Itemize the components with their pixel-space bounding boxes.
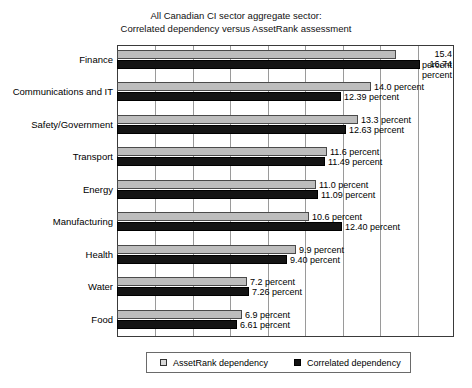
category-axis: FinanceCommunications and ITSafety/Gover… [0,45,113,337]
bar-correlated [117,92,341,101]
bar-value-label: 12.39 percent [344,92,399,102]
bar-group: 11.6 percent11.49 percent [117,142,454,174]
bar-assetrank [117,245,296,254]
category-label: Energy [0,184,113,195]
legend-label-correlated: Correlated dependency [307,358,401,368]
bar-value-label: 10.6 percent [312,212,362,222]
chart-legend: AssetRank dependency Correlated dependen… [146,352,411,373]
bar-value-label: 6.9 percent [245,310,290,320]
category-label: Communications and IT [0,86,113,97]
bar-rows: 15.4 percent16.74 percent14.0 percent12.… [117,45,454,337]
bar-value-label: 6.61 percent [240,320,290,330]
bar-assetrank [117,82,371,91]
bar-group: 15.4 percent16.74 percent [117,45,454,77]
bar-value-label: 11.6 percent [330,147,379,157]
bar-assetrank [117,180,316,189]
bar-assetrank [117,50,396,59]
legend-label-assetrank: AssetRank dependency [173,358,268,368]
legend-swatch-light-icon [160,359,167,366]
chart-subtitle: Correlated dependency versus AssetRank a… [0,22,472,35]
bar-correlated [117,287,249,296]
bar-group: 10.6 percent12.40 percent [117,207,454,239]
bar-assetrank [117,115,358,124]
legend-item-assetrank: AssetRank dependency [160,358,268,368]
bar-group: 9.9 percent9.40 percent [117,240,454,272]
bar-value-label: 9.9 percent [299,245,344,255]
category-label: Water [0,281,113,292]
chart-container: All Canadian CI sector aggregate sector:… [0,0,472,388]
bar-correlated [117,320,237,329]
category-label: Health [0,249,113,260]
bar-value-label: 12.63 percent [349,125,404,135]
bar-value-label: 9.40 percent [290,255,340,265]
chart-title-block: All Canadian CI sector aggregate sector:… [0,9,472,35]
bar-correlated [117,190,318,199]
bar-value-label: 11.0 percent [319,180,368,190]
bar-correlated [117,60,420,69]
legend-item-correlated: Correlated dependency [294,358,401,368]
bar-value-label: 13.3 percent [361,115,411,125]
bar-value-label: 14.0 percent [374,82,424,92]
category-label: Transport [0,151,113,162]
category-label: Finance [0,54,113,65]
bar-assetrank [117,277,247,286]
legend-swatch-dark-icon [294,359,301,366]
chart-title: All Canadian CI sector aggregate sector: [0,9,472,22]
bar-value-label: 7.26 percent [252,287,302,297]
bar-value-label: 7.2 percent [250,277,295,287]
bar-correlated [117,222,342,231]
bar-correlated [117,157,325,166]
bar-assetrank [117,310,242,319]
bar-assetrank [117,147,327,156]
bar-value-label: 11.49 percent [328,157,382,167]
bar-assetrank [117,212,309,221]
bar-value-label: 11.09 percent [321,190,375,200]
bar-group: 11.0 percent11.09 percent [117,175,454,207]
bar-correlated [117,125,346,134]
bar-value-label: 12.40 percent [345,222,400,232]
bar-group: 6.9 percent6.61 percent [117,305,454,337]
bar-group: 14.0 percent12.39 percent [117,77,454,109]
category-label: Safety/Government [0,119,113,130]
category-label: Food [0,314,113,325]
bar-group: 13.3 percent12.63 percent [117,110,454,142]
bar-group: 7.2 percent7.26 percent [117,272,454,304]
bar-correlated [117,255,287,264]
category-label: Manufacturing [0,216,113,227]
